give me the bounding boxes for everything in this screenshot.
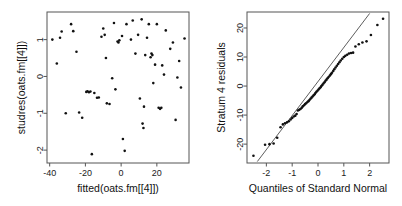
- y-tick-label: 20: [235, 23, 245, 33]
- y-tick-label: 0: [235, 84, 245, 89]
- figure-container: -40-2002010-1-2fitted(oats.fm[[4]])studr…: [0, 0, 402, 206]
- data-point: [121, 35, 124, 38]
- data-point: [139, 97, 142, 100]
- x-tick-label: 1: [341, 168, 346, 178]
- data-point: [142, 127, 145, 130]
- x-tick-label: 2: [367, 168, 372, 178]
- data-point: [149, 56, 152, 59]
- data-point: [131, 19, 134, 22]
- data-points: [252, 17, 384, 157]
- data-point: [123, 150, 126, 153]
- data-point: [180, 86, 183, 89]
- data-point: [144, 54, 147, 57]
- data-point: [370, 34, 373, 37]
- data-point: [361, 41, 364, 44]
- data-point: [59, 36, 62, 39]
- data-point: [174, 119, 177, 122]
- data-point: [143, 105, 146, 108]
- data-point: [169, 48, 172, 51]
- y-tick-label: 1: [35, 37, 45, 42]
- x-tick-label: 0: [119, 168, 124, 178]
- qq-plot-right-svg: -2-101220100-10-20Quantiles of Standard …: [201, 0, 402, 206]
- y-tick-label: -10: [235, 109, 245, 122]
- scatter-plot-panel-left: -40-2002010-1-2fitted(oats.fm[[4]])studr…: [0, 0, 201, 206]
- data-point: [140, 18, 143, 21]
- data-point: [137, 34, 140, 37]
- plot-frame: [247, 12, 389, 163]
- data-point: [102, 27, 105, 30]
- data-point: [141, 122, 144, 125]
- y-tick-label: -1: [35, 109, 45, 117]
- data-point: [75, 50, 78, 53]
- x-axis-title: Quantiles of Standard Normal: [249, 182, 387, 194]
- data-point: [148, 23, 151, 26]
- data-point: [122, 138, 125, 141]
- data-point: [276, 136, 279, 139]
- data-point: [111, 77, 114, 80]
- x-tick-label: -20: [79, 168, 92, 178]
- data-point: [164, 29, 167, 32]
- scatter-plot-left-svg: -40-2002010-1-2fitted(oats.fm[[4]])studr…: [0, 0, 201, 206]
- data-point: [252, 154, 255, 157]
- data-point: [156, 23, 159, 26]
- data-point: [100, 35, 103, 38]
- data-point: [91, 153, 94, 156]
- data-point: [70, 23, 73, 26]
- x-tick-label: -1: [288, 168, 296, 178]
- data-point: [118, 39, 121, 42]
- data-point: [382, 17, 385, 20]
- data-point: [352, 51, 355, 54]
- data-point: [60, 30, 63, 33]
- data-point: [357, 43, 360, 46]
- data-point: [376, 24, 379, 27]
- data-point: [176, 76, 179, 79]
- x-axis-title: fitted(oats.fm[[4]]): [77, 182, 159, 194]
- data-point: [268, 143, 271, 146]
- data-point: [97, 96, 100, 99]
- data-point: [89, 90, 92, 93]
- qq-plot-panel-right: -2-101220100-10-20Quantiles of Standard …: [201, 0, 402, 206]
- x-tick-label: 20: [152, 168, 162, 178]
- data-point: [105, 57, 108, 60]
- data-points: [51, 18, 186, 155]
- y-tick-label: 0: [35, 74, 45, 79]
- data-point: [279, 126, 282, 129]
- reference-line: [257, 13, 369, 161]
- y-axis-title: studres(oats.fm[[4]]): [15, 41, 27, 134]
- data-point: [130, 38, 133, 41]
- data-point: [183, 37, 186, 40]
- data-point: [146, 36, 149, 39]
- y-axis-title: Stratum 4 residuals: [215, 42, 227, 132]
- data-point: [161, 64, 164, 67]
- data-point: [264, 143, 267, 146]
- data-point: [114, 88, 117, 91]
- y-tick-label: -20: [235, 138, 245, 151]
- data-point: [78, 111, 81, 114]
- data-point: [178, 60, 181, 63]
- data-point: [56, 62, 59, 65]
- data-point: [64, 112, 67, 115]
- data-point: [152, 82, 155, 85]
- data-point: [151, 54, 154, 57]
- x-tick-label: -2: [262, 168, 270, 178]
- data-point: [93, 92, 96, 95]
- data-point: [160, 106, 163, 109]
- data-point: [354, 45, 357, 48]
- y-tick-label: -2: [35, 146, 45, 154]
- data-point: [365, 40, 368, 43]
- data-point: [154, 63, 157, 66]
- data-point: [72, 30, 75, 33]
- data-point: [51, 38, 54, 41]
- y-tick-label: 10: [235, 52, 245, 62]
- x-tick-label: 0: [315, 168, 320, 178]
- data-point: [134, 52, 137, 55]
- x-tick-label: -40: [43, 168, 56, 178]
- data-point: [106, 102, 109, 105]
- data-point: [81, 116, 84, 119]
- data-point: [295, 113, 298, 116]
- data-point: [172, 41, 175, 44]
- data-point: [163, 73, 166, 76]
- data-point: [272, 142, 275, 145]
- data-point: [108, 103, 111, 106]
- data-point: [113, 22, 116, 25]
